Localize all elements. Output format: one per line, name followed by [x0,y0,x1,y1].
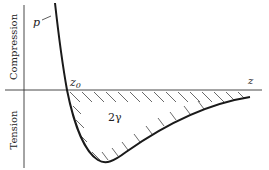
tension-label: Tension [8,110,19,150]
compression-label: Compression [8,13,19,80]
area-label: 2γ [108,111,122,124]
zero-crossing-label: z0 [69,76,81,90]
x-axis-label: z [247,75,254,86]
force-curve [55,3,250,162]
diagram-canvas: p z0 z 2γ Compression Tension [0,0,269,170]
curve-label-p: p [33,16,40,29]
p-leader-line [42,16,51,20]
zero-crossing-subscript: 0 [76,81,81,90]
stress-separation-diagram: p z0 z 2γ Compression Tension [0,0,269,170]
hatched-area [70,92,248,160]
